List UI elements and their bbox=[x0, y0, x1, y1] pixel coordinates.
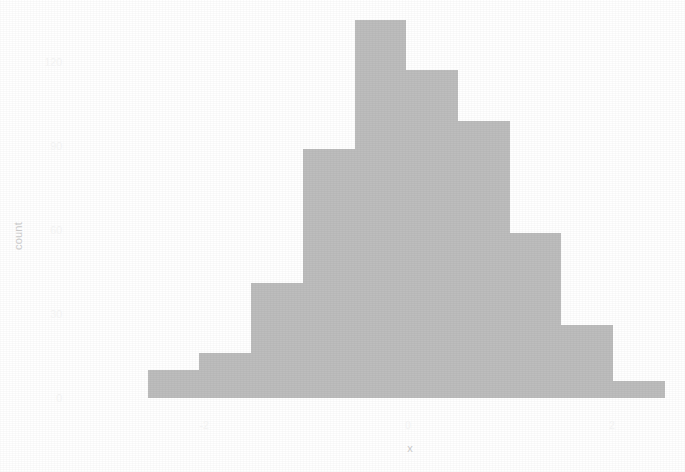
histogram-bar bbox=[148, 370, 199, 398]
y-tick-label: 90 bbox=[50, 140, 62, 152]
y-tick-label: 120 bbox=[44, 56, 62, 68]
histogram-bar bbox=[458, 121, 510, 398]
histogram-bar bbox=[355, 20, 406, 398]
histogram-bar bbox=[251, 283, 303, 398]
histogram-bar bbox=[561, 325, 613, 398]
histogram-bar bbox=[406, 70, 458, 398]
x-tick-label: 2 bbox=[609, 419, 615, 431]
y-tick-label: 60 bbox=[50, 224, 62, 236]
plot-panel bbox=[0, 0, 685, 472]
y-tick-label: 0 bbox=[56, 392, 62, 404]
histogram-bar bbox=[199, 353, 251, 398]
histogram-bar bbox=[303, 149, 355, 398]
x-tick-label: -2 bbox=[199, 419, 208, 431]
histogram-plot: count x -2020306090120 bbox=[0, 0, 685, 472]
x-axis-title: x bbox=[407, 442, 413, 454]
y-axis-title: count bbox=[12, 222, 24, 250]
histogram-bar bbox=[613, 381, 665, 398]
y-tick-label: 30 bbox=[50, 308, 62, 320]
histogram-bar bbox=[510, 233, 561, 398]
x-tick-label: 0 bbox=[405, 419, 411, 431]
